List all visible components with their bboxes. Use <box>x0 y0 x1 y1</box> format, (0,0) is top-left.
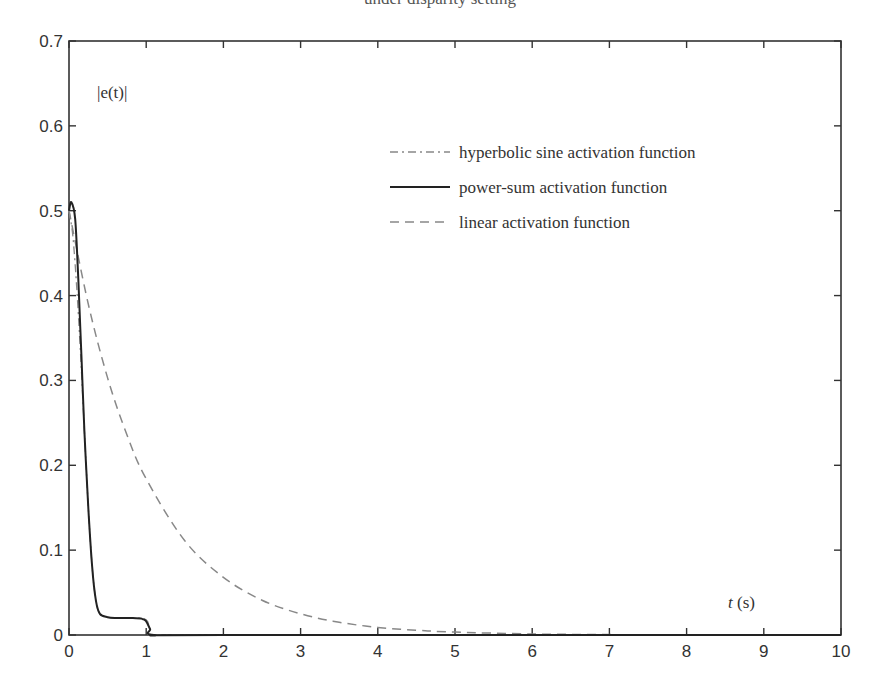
series-line-0 <box>69 211 841 636</box>
x-tick-label: 7 <box>605 642 614 661</box>
y-tick-label: 0.2 <box>39 456 63 475</box>
series-line-2 <box>69 211 841 635</box>
x-tick-label: 9 <box>759 642 768 661</box>
y-tick-label: 0.3 <box>39 371 63 390</box>
legend: hyperbolic sine activation functionpower… <box>390 143 696 232</box>
x-tick-label: 3 <box>296 642 305 661</box>
y-tick-label: 0 <box>54 626 63 645</box>
series-line-1 <box>69 202 841 635</box>
x-tick-label: 5 <box>450 642 459 661</box>
x-tick-label: 6 <box>527 642 536 661</box>
chart-canvas: under disparity setting 01234567891000.1… <box>0 0 879 697</box>
x-tick-label: 0 <box>64 642 73 661</box>
plot-axes: 01234567891000.10.20.30.40.50.60.7 <box>39 32 850 661</box>
x-tick-label: 8 <box>682 642 691 661</box>
legend-label: linear activation function <box>459 213 630 232</box>
legend-label: hyperbolic sine activation function <box>459 143 696 162</box>
x-tick-label: 1 <box>141 642 150 661</box>
y-tick-label: 0.7 <box>39 32 63 51</box>
x-tick-label: 10 <box>832 642 851 661</box>
legend-label: power-sum activation function <box>459 178 668 197</box>
x-axis-label: t (s) <box>728 593 755 612</box>
y-tick-label: 0.6 <box>39 117 63 136</box>
data-series <box>69 202 841 635</box>
y-tick-label: 0.1 <box>39 541 63 560</box>
x-tick-label: 2 <box>219 642 228 661</box>
plot-frame <box>69 41 841 635</box>
figure-title-partial: under disparity setting <box>364 0 517 8</box>
x-axis-label-unit: (s) <box>733 593 755 612</box>
x-tick-label: 4 <box>373 642 382 661</box>
y-tick-label: 0.4 <box>39 287 63 306</box>
y-tick-label: 0.5 <box>39 202 63 221</box>
y-axis-label: |e(t)| <box>97 83 127 102</box>
